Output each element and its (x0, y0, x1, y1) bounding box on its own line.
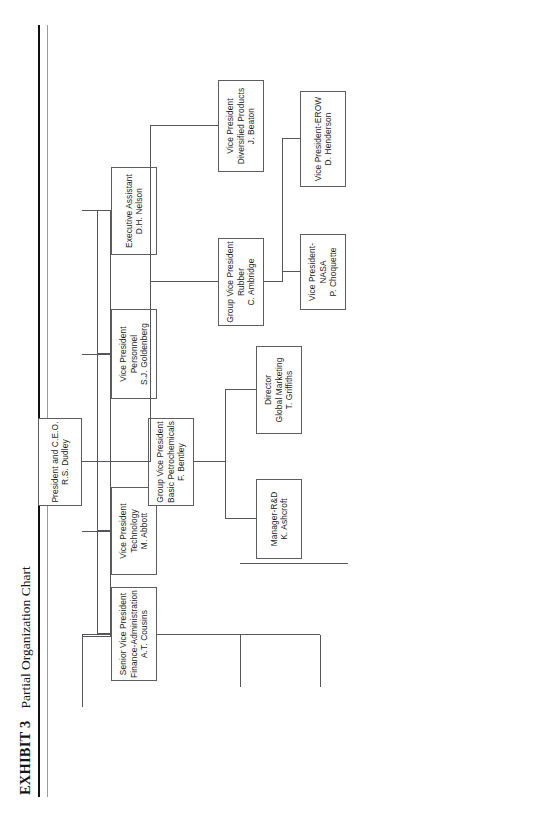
node-line: A.T. Cousins (139, 610, 149, 658)
node-line: Senior Vice President (118, 593, 128, 675)
edge-gvp_rubber-to-vp_erow-h (282, 139, 283, 282)
edge-gvp_rubber-to-vp_nasa-h (282, 272, 283, 282)
node-line: D. Henderson (323, 113, 333, 166)
scanned-page: EXHIBIT 3Partial Organization Chart (0, 0, 551, 817)
page-frame-rule (47, 25, 48, 797)
node-line: K. Ashcroft (279, 498, 289, 540)
node-line: D.H. Nelson (134, 188, 144, 234)
page-title: EXHIBIT 3Partial Organization Chart (16, 195, 34, 795)
edge-ceo-to-vp_div-v2 (150, 125, 218, 126)
node-president-ceo[interactable]: President and C.E.O. R.S. Dudley (38, 418, 82, 506)
node-line: Vice President (225, 98, 235, 153)
edge-gvp_petro-to-mgr_rd-v2 (225, 518, 256, 519)
edge-gvp_rubber-to-vp_nasa-v1 (264, 281, 282, 282)
edge-ceo-to-gvp_rubber-v2 (150, 281, 218, 282)
edge-ceo-to-exec_asst-h (97, 211, 98, 462)
node-line: Vice President-EROW (313, 97, 323, 182)
edge-ceo-to-vp_tech-v2 (97, 530, 111, 531)
connector-arm-rubber (240, 635, 241, 687)
node-line: Director (263, 375, 273, 405)
node-line: Personnel (129, 335, 139, 374)
node-line: R.S. Dudley (60, 439, 70, 485)
node-vp-diversified-products[interactable]: Vice President Diversified Products J. B… (218, 80, 264, 172)
node-line: C. Ambridge (246, 258, 256, 305)
edge-gvp_rubber-to-vp_erow-v2 (282, 138, 300, 139)
edge-gvp_rubber-to-vp_nasa-v2 (282, 271, 300, 272)
edge-gvp_petro-to-dir_mktg-h (225, 390, 226, 462)
edge-gvp_petro-to-dir_mktg-v2 (225, 389, 256, 390)
edge-gvp_petro-to-mgr_rd-v1 (194, 461, 225, 462)
node-line: P. Choquette (328, 248, 338, 297)
connector-svp-finance (82, 636, 111, 637)
node-line: F. Bentley (176, 443, 186, 481)
node-line: Vice President- (307, 243, 317, 301)
edge-ceo-to-gvp_petro-v2 (115, 461, 148, 462)
node-gvp-rubber[interactable]: Group Vice President Rubber C. Ambridge (218, 238, 264, 326)
node-line: Group Vice President (225, 241, 235, 322)
node-svp-finance-administration[interactable]: Senior Vice President Finance-Administra… (111, 587, 157, 681)
organization-chart-canvas: EXHIBIT 3Partial Organization Chart (0, 0, 551, 817)
edge-ceo-to-vp_pers-v2 (97, 353, 111, 354)
node-line: President and C.E.O. (50, 421, 60, 502)
connector-rubber-children-trunk (240, 563, 348, 564)
node-line: Technology (129, 509, 139, 552)
node-line: Rubber (236, 268, 246, 296)
node-line: Finance-Administration (129, 590, 139, 678)
node-gvp-basic-petrochemicals[interactable]: Group Vice President Basic Petrochemical… (148, 418, 194, 506)
node-line: Global Marketing (274, 358, 284, 423)
node-vp-erow[interactable]: Vice President-EROW D. Henderson (300, 91, 346, 187)
node-line: Group Vice President (155, 421, 165, 502)
exhibit-label: EXHIBIT 3 (17, 721, 33, 795)
node-line: Vice President (118, 503, 128, 558)
node-line: NASA (318, 260, 328, 283)
node-manager-rd[interactable]: Manager-R&D K. Ashcroft (256, 479, 302, 559)
node-line: M. Abbott (139, 513, 149, 549)
connector-ceo-to-divisions (82, 635, 83, 707)
edge-ceo-to-vp_tech-h (97, 462, 98, 531)
exhibit-caption: Partial Organization Chart (18, 566, 33, 708)
node-line: Executive Assistant (124, 174, 134, 248)
node-line: Diversified Products (236, 88, 246, 164)
node-line: Manager-R&D (269, 492, 279, 547)
node-director-global-marketing[interactable]: Director Global Marketing T. Griffiths (256, 346, 302, 434)
node-line: Vice President (118, 326, 128, 381)
node-line: T. Griffiths (284, 371, 294, 410)
node-line: S.J. Goldenberg (139, 323, 149, 385)
connector-arm-diversified (320, 635, 321, 687)
edge-gvp_petro-to-mgr_rd-h (225, 462, 226, 519)
node-line: J. Beaton (246, 108, 256, 144)
edge-ceo-to-gvp_rubber-h (150, 282, 151, 462)
edge-ceo-to-svp_fin-v2 (97, 633, 111, 634)
title-divider-rule (38, 25, 40, 797)
node-vp-nasa[interactable]: Vice President- NASA P. Choquette (300, 234, 346, 310)
node-line: Basic Petrochemicals (166, 421, 176, 503)
edge-ceo-to-gvp_petro-v1 (82, 461, 115, 462)
edge-ceo-to-exec_asst-v2 (97, 210, 111, 211)
